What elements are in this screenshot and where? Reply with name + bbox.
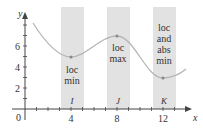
y-tick-label-4: 4 (15, 62, 20, 73)
x-tick-label-12: 12 (158, 113, 168, 124)
annotation-k-line3: abs (157, 44, 170, 55)
origin-label: 0 (16, 112, 21, 123)
x-axis-arrow-icon (185, 106, 192, 112)
x-axis-label: x (192, 112, 198, 123)
annotation-i-line1: loc (66, 64, 79, 75)
chart: y x 0 4 8 12 2 4 6 I J K loc min loc max… (0, 0, 203, 133)
annotation-k-line2: and (157, 33, 171, 44)
y-axis-arrow-icon (22, 12, 28, 19)
x-tick-label-8: 8 (115, 113, 120, 124)
abs-min-point (162, 77, 165, 80)
annotation-i-line2: min (64, 75, 80, 86)
local-min-point (70, 56, 73, 59)
y-tick-label-6: 6 (15, 41, 20, 52)
annotation-j-line1: loc (112, 42, 125, 53)
annotation-k-line4: min (156, 55, 172, 66)
interval-name-k: K (160, 96, 168, 106)
annotation-k-line1: loc (158, 22, 171, 33)
y-axis-label: y (17, 8, 23, 19)
y-tick-label-2: 2 (15, 83, 20, 94)
x-tick-label-4: 4 (69, 113, 74, 124)
interval-band-i (61, 7, 84, 109)
annotation-j-line2: max (109, 53, 126, 64)
local-max-point (116, 35, 119, 38)
